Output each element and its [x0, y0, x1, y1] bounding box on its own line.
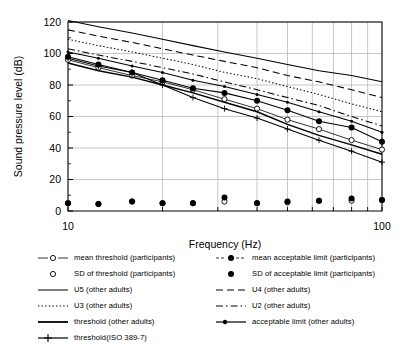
- data-point-plus: [379, 159, 385, 165]
- data-point-small: [131, 65, 134, 68]
- data-point-small: [286, 101, 289, 104]
- legend-key-dash-dot-icon: [214, 298, 248, 314]
- legend-item-label: U5 (other adults): [74, 286, 132, 294]
- legend-key-open-circle-icon: [36, 266, 70, 282]
- chart-legend: mean threshold (participants)SD of thres…: [0, 250, 409, 344]
- data-point-filled: [221, 90, 227, 96]
- data-point-filled: [316, 198, 322, 204]
- legend-item-label: U2 (other adults): [252, 302, 310, 310]
- legend-item[interactable]: U4 (other adults): [214, 282, 375, 298]
- legend-key-filled-circle-icon: [214, 266, 248, 282]
- chart-plot-area: 02040608010012010100Frequency (Hz)Sound …: [0, 0, 409, 250]
- legend-item[interactable]: threshold (other adults): [36, 314, 175, 330]
- legend-item[interactable]: U3 (other adults): [36, 298, 175, 314]
- series-0: [65, 57, 384, 152]
- legend-item[interactable]: U5 (other adults): [36, 282, 175, 298]
- data-point-filled: [379, 197, 385, 203]
- legend-key-marker-plus: [44, 334, 52, 342]
- y-tick-label: 100: [43, 47, 61, 59]
- series-4: [68, 20, 382, 81]
- legend-item-label: SD of acceptable limit (participants): [252, 270, 375, 278]
- data-point-filled: [221, 195, 227, 201]
- data-point-small: [161, 71, 164, 74]
- legend-key-solid-plus-marker-icon: [36, 330, 70, 344]
- x-axis-title: Frequency (Hz): [189, 238, 261, 250]
- legend-item-label: acceptable limit (other adults): [252, 318, 354, 326]
- series-line: [68, 20, 382, 81]
- y-tick-label: 60: [49, 110, 61, 122]
- legend-key-solid-thick-icon: [36, 314, 70, 330]
- data-point-open: [254, 106, 259, 111]
- data-point-open: [285, 117, 290, 122]
- data-point-filled: [316, 118, 322, 124]
- data-point-filled: [254, 200, 260, 206]
- data-point-filled: [379, 139, 385, 145]
- data-point-filled: [160, 200, 166, 206]
- legend-item[interactable]: SD of threshold (participants): [36, 266, 175, 282]
- data-point-filled: [284, 107, 290, 113]
- data-point-small: [67, 50, 70, 53]
- legend-item-label: SD of threshold (participants): [74, 270, 175, 278]
- y-tick-label: 80: [49, 79, 61, 91]
- data-series-group: [65, 20, 385, 206]
- legend-key-line-open-circle-icon: [36, 250, 70, 266]
- legend-item[interactable]: SD of acceptable limit (participants): [214, 266, 375, 282]
- data-point-open: [316, 127, 321, 132]
- y-axis-title: Sound pressure level (dB): [12, 56, 24, 177]
- data-point-plus: [254, 115, 260, 121]
- legend-key-line-filled-circle-icon: [214, 250, 248, 266]
- data-point-filled: [190, 200, 196, 206]
- data-point-small: [317, 110, 320, 113]
- legend-item[interactable]: U2 (other adults): [214, 298, 375, 314]
- legend-item[interactable]: mean threshold (participants): [36, 250, 175, 266]
- legend-item-label: mean acceptable limit (participants): [252, 254, 375, 262]
- y-tick-label: 40: [49, 142, 61, 154]
- y-axis: 020406080100120: [43, 16, 73, 217]
- data-point-filled: [254, 98, 260, 104]
- legend-column-left: mean threshold (participants)SD of thres…: [36, 250, 175, 344]
- data-point-filled: [190, 85, 196, 91]
- data-point-plus: [221, 106, 227, 112]
- y-tick-label: 120: [43, 16, 61, 28]
- legend-item[interactable]: threshold(ISO 389-7): [36, 330, 175, 344]
- x-tick-label: 10: [62, 220, 74, 232]
- legend-column-right: mean acceptable limit (participants)SD o…: [214, 250, 375, 330]
- y-tick-label: 20: [49, 173, 61, 185]
- legend-item-label: threshold (other adults): [74, 318, 155, 326]
- y-tick-label: 0: [55, 205, 61, 217]
- data-point-small: [223, 85, 226, 88]
- data-point-small: [256, 93, 259, 96]
- data-point-filled: [65, 200, 71, 206]
- data-point-plus: [190, 95, 196, 101]
- data-point-filled: [349, 195, 355, 201]
- legend-item[interactable]: acceptable limit (other adults): [214, 314, 375, 330]
- data-point-plus: [349, 148, 355, 154]
- data-point-small: [97, 57, 100, 60]
- chart-figure: 02040608010012010100Frequency (Hz)Sound …: [0, 0, 409, 344]
- data-point-filled: [95, 201, 101, 207]
- x-tick-label: 100: [373, 220, 391, 232]
- legend-item-label: U4 (other adults): [252, 286, 310, 294]
- data-point-small: [350, 120, 353, 123]
- legend-item-label: U3 (other adults): [74, 302, 132, 310]
- data-point-open: [349, 138, 354, 143]
- legend-item-label: mean threshold (participants): [74, 254, 175, 262]
- legend-key-open-circle: [50, 255, 55, 260]
- legend-key-solid-dot-marker-icon: [214, 314, 248, 330]
- legend-key-filled-circle: [228, 255, 234, 261]
- legend-key-marker-dot: [223, 320, 227, 324]
- data-point-open: [379, 147, 384, 152]
- legend-key-filled-circle: [228, 271, 234, 277]
- data-point-filled: [284, 199, 290, 205]
- legend-key-dotted-icon: [36, 298, 70, 314]
- legend-key-dashed-icon: [214, 282, 248, 298]
- data-point-open: [222, 97, 227, 102]
- series-10: [65, 55, 385, 165]
- legend-key-open-circle: [50, 271, 55, 276]
- data-point-filled: [349, 125, 355, 131]
- data-point-small: [381, 131, 384, 134]
- legend-item[interactable]: mean acceptable limit (participants): [214, 250, 375, 266]
- legend-item-label: threshold(ISO 389-7): [74, 334, 147, 342]
- data-point-filled: [129, 199, 135, 205]
- data-point-plus: [316, 137, 322, 143]
